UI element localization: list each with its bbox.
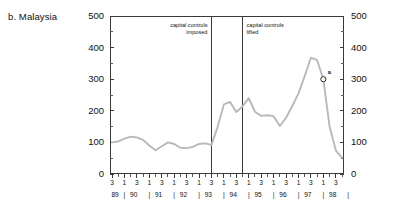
- x-quarter-label: 3: [135, 179, 139, 186]
- x-major-tick: [211, 174, 212, 178]
- y-tick-label-right: 300: [351, 73, 367, 84]
- x-quarter-label: 1: [172, 179, 176, 186]
- x-major-tick: [223, 174, 224, 178]
- data-series-line: [110, 16, 344, 174]
- x-year-label: 91: [155, 191, 162, 198]
- x-year-label: 89: [111, 191, 118, 198]
- x-year-label: 92: [180, 191, 187, 198]
- x-major-tick: [199, 174, 200, 178]
- x-major-tick: [310, 174, 311, 178]
- x-year-label: 90: [130, 191, 137, 198]
- x-major-tick: [298, 174, 299, 178]
- x-major-tick: [124, 174, 125, 178]
- marker-point-a: [321, 77, 326, 82]
- x-major-tick: [186, 174, 187, 178]
- x-major-tick: [335, 174, 336, 178]
- y-tick-label-left: 0: [44, 168, 104, 179]
- x-quarter-label: 3: [309, 179, 313, 186]
- x-quarter-label: 3: [210, 179, 214, 186]
- x-minor-tick: [192, 174, 193, 177]
- x-minor-tick: [118, 174, 119, 177]
- y-tick-label-right: 0: [351, 168, 356, 179]
- marker-label-a: a: [328, 69, 331, 75]
- x-year-label: 93: [205, 191, 212, 198]
- x-quarter-label: 1: [123, 179, 127, 186]
- x-minor-tick: [242, 174, 243, 177]
- plot-area: 5004003002001000 5004003002001000 capita…: [110, 16, 344, 174]
- x-quarter-label: 1: [322, 179, 326, 186]
- x-major-tick: [273, 174, 274, 178]
- x-year-label: 98: [329, 191, 336, 198]
- y-tick-label-left: 500: [44, 10, 104, 21]
- y-tick-label-left: 400: [44, 42, 104, 53]
- y-tick-label-left: 300: [44, 73, 104, 84]
- x-quarter-label: 3: [284, 179, 288, 186]
- y-tick-label-right: 400: [351, 42, 367, 53]
- x-minor-tick: [254, 174, 255, 177]
- y-tick-label-right: 500: [351, 10, 367, 21]
- x-minor-tick: [205, 174, 206, 177]
- x-year-label: 95: [254, 191, 261, 198]
- x-major-tick: [236, 174, 237, 178]
- x-year-separator: |: [198, 191, 200, 198]
- x-minor-tick: [143, 174, 144, 177]
- x-minor-tick: [342, 174, 343, 177]
- x-minor-tick: [180, 174, 181, 177]
- x-minor-tick: [130, 174, 131, 177]
- x-minor-tick: [230, 174, 231, 177]
- x-year-label: 94: [230, 191, 237, 198]
- x-minor-tick: [279, 174, 280, 177]
- x-quarter-label: 3: [185, 179, 189, 186]
- x-year-separator: |: [298, 191, 300, 198]
- x-major-tick: [149, 174, 150, 178]
- x-quarter-label: 3: [334, 179, 338, 186]
- x-major-tick: [286, 174, 287, 178]
- x-minor-tick: [167, 174, 168, 177]
- y-tick-label-left: 100: [44, 136, 104, 147]
- x-minor-tick: [267, 174, 268, 177]
- x-year-separator: |: [273, 191, 275, 198]
- x-quarter-label: 1: [297, 179, 301, 186]
- x-quarter-label: 3: [110, 179, 114, 186]
- x-major-tick: [174, 174, 175, 178]
- y-tick-label-right: 200: [351, 105, 367, 116]
- x-quarter-label: 1: [197, 179, 201, 186]
- x-minor-tick: [292, 174, 293, 177]
- x-major-tick: [323, 174, 324, 178]
- x-year-separator: |: [223, 191, 225, 198]
- x-quarter-label: 1: [147, 179, 151, 186]
- x-year-label: 96: [279, 191, 286, 198]
- x-year-separator: |: [347, 191, 349, 198]
- x-minor-tick: [304, 174, 305, 177]
- x-quarter-label: 1: [272, 179, 276, 186]
- x-year-separator: |: [248, 191, 250, 198]
- x-year-separator: |: [173, 191, 175, 198]
- x-minor-tick: [317, 174, 318, 177]
- x-minor-tick: [329, 174, 330, 177]
- x-quarter-label: 3: [160, 179, 164, 186]
- x-major-tick: [161, 174, 162, 178]
- y-tick-label-right: 100: [351, 136, 367, 147]
- y-tick-label-left: 200: [44, 105, 104, 116]
- x-year-separator: |: [124, 191, 126, 198]
- x-major-tick: [112, 174, 113, 178]
- x-quarter-label: 3: [259, 179, 263, 186]
- x-quarter-label: 3: [234, 179, 238, 186]
- x-year-separator: |: [148, 191, 150, 198]
- x-quarter-label: 1: [247, 179, 251, 186]
- x-major-tick: [136, 174, 137, 178]
- x-quarter-label: 1: [222, 179, 226, 186]
- x-year-label: 97: [304, 191, 311, 198]
- chart-panel: b. Malaysia 5004003002001000 50040030020…: [0, 0, 405, 217]
- x-year-separator: |: [322, 191, 324, 198]
- x-minor-tick: [217, 174, 218, 177]
- x-major-tick: [261, 174, 262, 178]
- x-major-tick: [248, 174, 249, 178]
- x-minor-tick: [155, 174, 156, 177]
